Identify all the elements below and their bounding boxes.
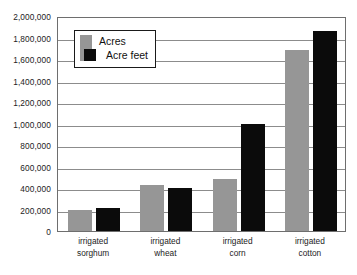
bar-group [285, 18, 337, 231]
y-axis-tick-label: 1,200,000 [13, 98, 51, 108]
bar-acre-feet [241, 124, 265, 232]
bar-acre-feet [168, 188, 192, 231]
y-axis: 2,000,000 1,800,000 1,600,000 1,400,000 … [0, 0, 54, 275]
x-axis-category-label: irrigatedcotton [274, 236, 346, 259]
y-axis-tick-label: 200,000 [20, 206, 51, 216]
bar-acres [213, 179, 237, 231]
legend-label-acres: Acres [99, 34, 148, 48]
y-axis-tick-label: 400,000 [20, 184, 51, 194]
y-axis-tick-label: 1,400,000 [13, 77, 51, 87]
legend-swatch-acre-feet [84, 49, 96, 61]
chart-legend: Acres Acre feet [74, 30, 156, 68]
y-axis-tick-label: 2,000,000 [13, 12, 51, 22]
bar-acre-feet [313, 31, 337, 231]
x-axis: irrigatedsorghumirrigatedwheatirrigatedc… [57, 236, 346, 272]
bar-chart: 2,000,000 1,800,000 1,600,000 1,400,000 … [0, 0, 357, 275]
legend-labels: Acres Acre feet [99, 34, 148, 62]
legend-swatches [80, 34, 95, 64]
y-axis-tick-label: 1,000,000 [13, 120, 51, 130]
x-axis-category-label: irrigatedsorghum [57, 236, 129, 259]
y-axis-tick-label: 600,000 [20, 163, 51, 173]
x-axis-category-label: irrigatedwheat [129, 236, 201, 259]
y-axis-tick-label: 1,800,000 [13, 34, 51, 44]
x-axis-category-label: irrigatedcorn [202, 236, 274, 259]
bar-acres [68, 210, 92, 232]
bar-group [213, 18, 265, 231]
y-axis-tick-label: 800,000 [20, 141, 51, 151]
y-axis-tick-label: 0 [46, 227, 51, 237]
legend-label-acre-feet: Acre feet [106, 48, 148, 62]
bar-acres [285, 50, 309, 231]
bar-acres [140, 185, 164, 231]
y-axis-tick-label: 1,600,000 [13, 55, 51, 65]
bar-acre-feet [96, 208, 120, 231]
